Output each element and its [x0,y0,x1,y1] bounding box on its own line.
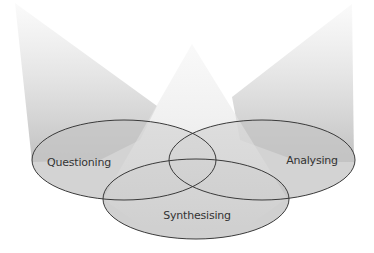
synthesising-label: Synthesising [163,209,231,222]
analysing-label: Analysing [286,154,338,167]
questioning-label: Questioning [47,156,111,169]
venn-spotlight-diagram: Questioning Analysing Synthesising [0,0,374,253]
